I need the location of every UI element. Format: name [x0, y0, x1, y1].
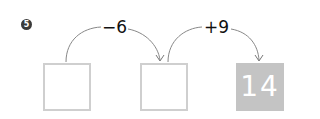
given-value-box: 14 — [236, 63, 284, 111]
operation-label-2: +9 — [204, 17, 229, 37]
answer-box-2[interactable] — [140, 63, 188, 111]
arc-step-2 — [168, 27, 202, 62]
operation-label-1: −6 — [102, 17, 127, 37]
answer-box-1[interactable] — [43, 63, 91, 111]
arc-step-1 — [66, 27, 101, 62]
arc-step-1-tail — [128, 29, 160, 60]
